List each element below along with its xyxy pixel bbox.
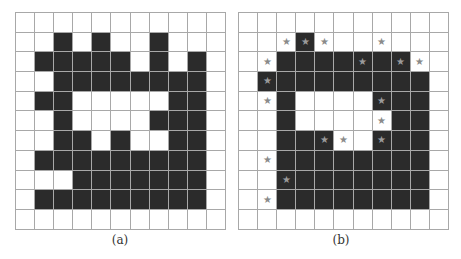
star-icon: ★ <box>263 96 272 106</box>
filled-cell <box>188 151 207 171</box>
filled-cell <box>334 171 353 191</box>
empty-cell <box>296 210 315 230</box>
filled-cell <box>54 131 73 151</box>
filled-cell <box>188 72 207 92</box>
star-icon: ★ <box>301 37 310 47</box>
filled-cell <box>392 151 411 171</box>
empty-cell <box>430 151 449 171</box>
filled-cell <box>315 151 334 171</box>
filled-cell <box>92 72 111 92</box>
empty-cell <box>188 13 207 33</box>
filled-cell <box>411 92 430 112</box>
empty-cell <box>16 72 35 92</box>
empty-cell <box>111 111 130 131</box>
filled-cell <box>131 72 150 92</box>
empty-cell <box>334 92 353 112</box>
filled-cell <box>169 92 188 112</box>
empty-cell <box>92 210 111 230</box>
empty-cell <box>354 210 373 230</box>
empty-cell <box>92 92 111 112</box>
empty-cell <box>207 92 226 112</box>
empty-cell <box>150 131 169 151</box>
empty-cell <box>430 190 449 210</box>
filled-cell <box>296 151 315 171</box>
empty-cell: ★ <box>277 33 296 53</box>
empty-cell <box>131 131 150 151</box>
star-icon: ★ <box>282 175 291 185</box>
star-icon: ★ <box>415 57 424 67</box>
binary-grid-b: ★★★★★★★★★★★★★★★★★★ <box>238 12 449 230</box>
filled-cell <box>392 92 411 112</box>
filled-cell <box>411 171 430 191</box>
empty-cell <box>315 13 334 33</box>
empty-cell <box>411 13 430 33</box>
filled-cell <box>334 151 353 171</box>
filled-cell <box>73 131 92 151</box>
filled-cell <box>392 131 411 151</box>
filled-cell <box>277 151 296 171</box>
empty-cell <box>239 111 258 131</box>
empty-cell <box>188 210 207 230</box>
filled-cell <box>111 72 130 92</box>
empty-cell <box>35 171 54 191</box>
empty-cell: ★ <box>334 131 353 151</box>
empty-cell <box>54 210 73 230</box>
empty-cell <box>430 171 449 191</box>
star-icon: ★ <box>320 135 329 145</box>
filled-cell <box>373 151 392 171</box>
star-icon: ★ <box>377 37 386 47</box>
filled-cell <box>411 111 430 131</box>
filled-cell <box>54 190 73 210</box>
empty-cell <box>150 92 169 112</box>
filled-cell <box>392 72 411 92</box>
star-icon: ★ <box>263 195 272 205</box>
filled-cell <box>334 190 353 210</box>
filled-cell <box>277 72 296 92</box>
filled-cell <box>150 171 169 191</box>
empty-cell <box>392 13 411 33</box>
empty-cell <box>239 131 258 151</box>
filled-cell <box>334 52 353 72</box>
filled-cell <box>150 33 169 53</box>
filled-cell <box>150 151 169 171</box>
filled-cell <box>131 190 150 210</box>
empty-cell <box>131 33 150 53</box>
filled-cell <box>188 92 207 112</box>
empty-cell <box>334 210 353 230</box>
filled-cell <box>411 151 430 171</box>
empty-cell: ★ <box>373 111 392 131</box>
filled-cell <box>315 72 334 92</box>
filled-cell <box>392 111 411 131</box>
filled-cell <box>296 171 315 191</box>
empty-cell <box>207 190 226 210</box>
filled-cell <box>54 72 73 92</box>
empty-cell <box>207 210 226 230</box>
filled-cell <box>296 72 315 92</box>
filled-cell <box>131 171 150 191</box>
filled-cell <box>354 72 373 92</box>
filled-cell <box>111 171 130 191</box>
filled-cell: ★ <box>277 171 296 191</box>
empty-cell <box>207 52 226 72</box>
empty-cell <box>54 13 73 33</box>
empty-cell <box>239 92 258 112</box>
empty-cell <box>430 33 449 53</box>
filled-cell <box>169 151 188 171</box>
filled-cell <box>373 52 392 72</box>
empty-cell <box>430 13 449 33</box>
filled-cell <box>150 72 169 92</box>
filled-cell <box>334 72 353 92</box>
empty-cell <box>392 210 411 230</box>
empty-cell <box>16 210 35 230</box>
empty-cell <box>315 111 334 131</box>
empty-cell <box>411 33 430 53</box>
empty-cell <box>258 111 277 131</box>
empty-cell <box>296 92 315 112</box>
filled-cell: ★ <box>296 33 315 53</box>
panel-a <box>15 12 226 230</box>
filled-cell <box>54 92 73 112</box>
empty-cell <box>73 92 92 112</box>
star-icon: ★ <box>320 37 329 47</box>
filled-cell <box>92 171 111 191</box>
empty-cell <box>207 131 226 151</box>
